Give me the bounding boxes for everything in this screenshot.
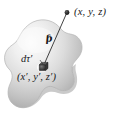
figure-canvas xyxy=(0,0,120,124)
field-point-marker xyxy=(65,10,70,15)
blob-highlight xyxy=(17,27,55,53)
physics-figure: (x, y, z) ƥ dτ′ (x′, y′, z′) xyxy=(0,0,120,124)
